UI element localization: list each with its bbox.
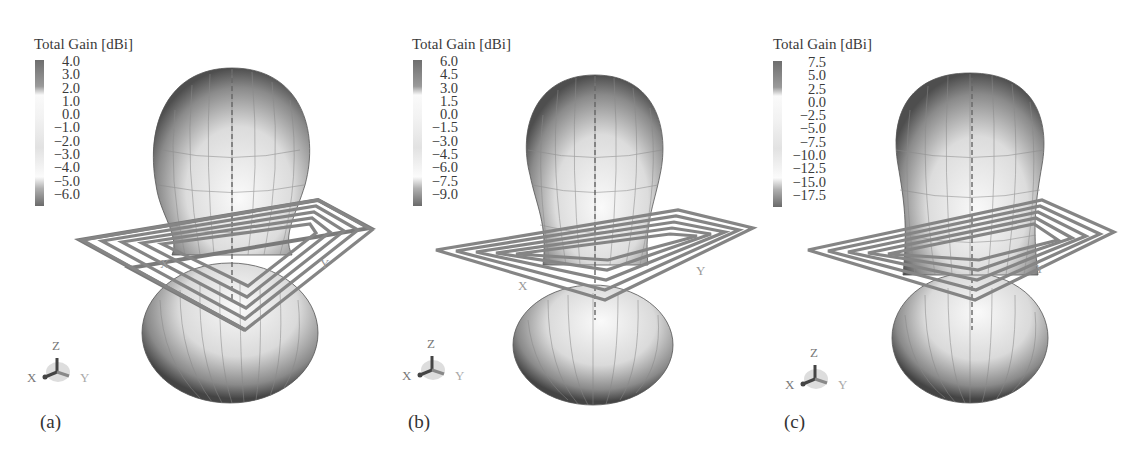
panel-b: Total Gain [dBi] 6.04.53.01.50.0−1.5−3.0… [378, 0, 758, 454]
svg-text:Y: Y [696, 263, 706, 278]
panel-a: Total Gain [dBi] 4.03.02.01.00.0−1.0−2.0… [0, 0, 380, 454]
panel-label: (a) [40, 411, 61, 433]
axis-triad: Z X Y [402, 338, 472, 388]
panel-label: (b) [408, 411, 430, 433]
panel-label: (c) [784, 411, 805, 433]
axis-x-label: X [785, 377, 794, 393]
axis-y-label: Y [455, 368, 464, 384]
axis-x-label: X [27, 370, 36, 386]
svg-text:Y: Y [320, 256, 330, 271]
axis-x-label: X [402, 368, 411, 384]
axis-z-label: Z [427, 336, 435, 352]
svg-text:X: X [160, 256, 170, 271]
axis-y-label: Y [838, 377, 847, 393]
svg-text:X: X [518, 278, 528, 293]
axis-triad: Z X Y [27, 340, 97, 390]
axis-z-label: Z [52, 338, 60, 354]
axis-z-label: Z [810, 345, 818, 361]
axis-triad: Z X Y [785, 347, 855, 397]
panel-c: Total Gain [dBi] 7.55.02.50.0−2.5−5.0−7.… [760, 0, 1140, 454]
svg-text:Y: Y [1035, 261, 1045, 276]
axis-y-label: Y [80, 370, 89, 386]
